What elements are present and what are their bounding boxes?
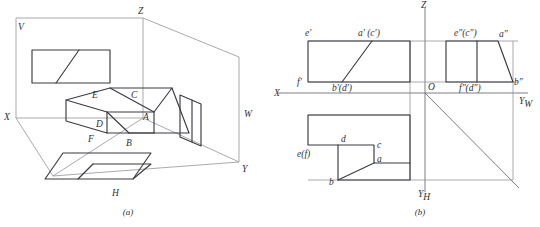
label-b-prime-d-prime: b′(d′) (332, 83, 352, 94)
label-axis-origin: O (428, 82, 435, 92)
panel-b-three-views: X Z O YW YH e′ a′ (c′) f′ b′(d′) e″(c″) … (270, 0, 540, 227)
label-vertex-d: D (95, 119, 103, 129)
label-f-prime: f′ (297, 77, 303, 87)
solid-top-face (66, 88, 172, 112)
label-vertex-b: B (126, 138, 132, 148)
label-d: d (341, 134, 346, 144)
w-plane-side-view (180, 95, 201, 146)
v-plane-rect (16, 18, 143, 118)
label-z-axis: Z (138, 6, 144, 16)
label-axis-yh: YH (418, 189, 431, 202)
label-axis-yw: YW (519, 96, 533, 109)
front-view-outline (308, 41, 410, 82)
label-a-dprime: a″ (499, 29, 509, 39)
label-e-dprime-c-dprime: e″(c″) (454, 28, 477, 39)
solid-prism (66, 88, 189, 133)
label-f-dprime-d-dprime: f″(d″) (459, 83, 481, 94)
front-view-rect (32, 50, 110, 83)
solid-slant-edge (107, 112, 129, 133)
label-e-prime: e′ (305, 28, 312, 38)
side-view-quad (180, 95, 201, 146)
solid-right-slant-face (154, 88, 189, 133)
top-view-inner-slant (338, 163, 374, 180)
top-view (308, 115, 410, 180)
top-view-inner-slant (78, 164, 93, 179)
v-plane-front-view (32, 50, 110, 83)
box-edge-z-to-w-top (143, 18, 239, 57)
panel-a-drawing: V Z X W Y H E C A D F B (a) (0, 0, 270, 227)
box-edge-w-bottom-diagonal (143, 118, 239, 162)
label-axis-z: Z (421, 0, 427, 10)
construction-lines (308, 41, 518, 180)
label-vertex-f: F (87, 134, 94, 144)
label-c: c (377, 140, 382, 150)
top-view-inner-step (338, 145, 410, 163)
panel-a-projection-box: V Z X W Y H E C A D F B (a) (0, 0, 270, 227)
label-e-f: e(f) (297, 149, 310, 160)
front-view (308, 41, 410, 82)
axis-45-degree-bisector (425, 93, 519, 188)
front-view-slant (56, 50, 79, 83)
label-vertex-a: A (142, 112, 149, 122)
caption-b: (b) (415, 207, 426, 217)
label-vertex-e: E (91, 90, 98, 100)
side-view-outline (446, 41, 513, 82)
label-b: b (329, 177, 334, 187)
label-y-axis: Y (242, 164, 249, 174)
label-b-dprime: b″ (514, 77, 524, 87)
label-a-prime-c-prime: a′ (c′) (358, 28, 380, 39)
label-a: a (377, 154, 382, 164)
panel-b-drawing: X Z O YW YH e′ a′ (c′) f′ b′(d′) e″(c″) … (270, 0, 540, 227)
label-v-plane: V (18, 22, 25, 32)
principal-axes (278, 8, 528, 192)
front-view-slant-line (342, 41, 372, 82)
label-h-plane: H (111, 188, 120, 198)
label-w-plane: W (244, 109, 253, 119)
label-vertex-c: C (131, 90, 138, 100)
label-x-axis: X (3, 112, 11, 122)
caption-a: (a) (123, 207, 134, 217)
label-axis-x: X (273, 88, 281, 98)
side-view (446, 41, 513, 82)
figure-root: V Z X W Y H E C A D F B (a) (0, 0, 540, 227)
